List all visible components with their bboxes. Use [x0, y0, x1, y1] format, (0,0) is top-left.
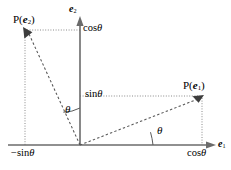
tick-label-cos-top: cosθ: [83, 23, 102, 34]
projection-guide-lines: [25, 30, 202, 145]
theta-symbol-cos-top: θ: [97, 22, 102, 33]
tick-label-cos-top-text: cos: [83, 22, 97, 33]
point-label-pe1-prefix: P(: [183, 79, 193, 91]
angle-arcs: [63, 108, 153, 145]
angle-label-theta-y: θ: [65, 104, 70, 115]
point-label-pe2-prefix: P(: [13, 13, 23, 25]
point-label-pe1: P(e1): [183, 80, 205, 92]
tick-label-cos-right-text: cos: [187, 147, 201, 158]
point-label-pe1-suffix: ): [201, 79, 205, 91]
vector-pe2-arrowhead: [23, 27, 32, 39]
axis-label-e2-sub: 2: [73, 7, 76, 14]
vector-rotation-diagram: P(e2) P(e1) e2 e1 cosθ sinθ −sinθ cosθ θ…: [0, 0, 231, 170]
axis-label-e1-sub: 1: [222, 142, 225, 149]
vector-pe2-shaft: [29, 34, 80, 145]
angle-arc-theta-x: [151, 132, 154, 145]
vector-pe1-shaft: [80, 99, 198, 145]
angle-label-theta-x-symbol: θ: [157, 124, 162, 136]
tick-label-sin-mid: sinθ: [85, 89, 102, 100]
tick-label-cos-right: cosθ: [187, 148, 206, 159]
point-label-pe2-suffix: ): [31, 13, 35, 25]
axis-label-e1: e1: [218, 139, 226, 149]
axis-label-e2: e2: [69, 4, 77, 14]
theta-symbol-neg-sin-left: θ: [29, 147, 34, 158]
x-axis-arrowhead: [206, 141, 216, 148]
rotated-basis-vectors: [29, 34, 198, 145]
theta-symbol-sin-mid: θ: [97, 88, 102, 99]
angle-label-theta-x: θ: [157, 125, 162, 136]
angle-label-theta-y-symbol: θ: [65, 103, 70, 115]
tick-label-neg-sin-left: −sinθ: [11, 148, 34, 159]
coordinate-axes: [8, 22, 210, 145]
tick-label-neg-sin-left-text: −sin: [11, 147, 29, 158]
tick-label-sin-mid-text: sin: [85, 88, 97, 99]
point-label-pe2: P(e2): [13, 14, 35, 26]
theta-symbol-cos-right: θ: [201, 147, 206, 158]
